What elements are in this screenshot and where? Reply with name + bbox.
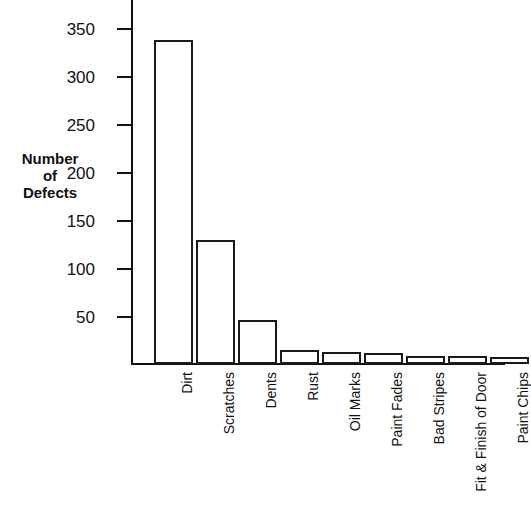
y-tick-label-300: 300: [35, 69, 95, 86]
y-tick-150: 150: [117, 220, 131, 222]
bar-oil-marks[interactable]: [322, 352, 361, 364]
bar-paint-fades[interactable]: [364, 353, 403, 364]
bar-dirt[interactable]: [154, 40, 193, 364]
y-tick-300: 300: [117, 76, 131, 78]
x-label-dirt: Dirt: [180, 372, 194, 394]
y-axis-line: [131, 0, 133, 365]
y-tick-label-100: 100: [35, 261, 95, 278]
y-tick-label-350: 350: [35, 21, 95, 38]
x-label-paint-chips: Paint Chips: [516, 372, 530, 444]
x-label-dents: Dents: [264, 372, 278, 409]
x-label-fit-finish-of-door: Fit & Finish of Door: [474, 372, 488, 492]
y-tick-250: 250: [117, 124, 131, 126]
y-tick-50: 50: [117, 316, 131, 318]
plot-area: 50100150200250300350: [131, 0, 505, 365]
x-label-oil-marks: Oil Marks: [348, 372, 362, 431]
bar-rust[interactable]: [280, 350, 319, 364]
y-tick-label-50: 50: [35, 309, 95, 326]
y-axis-title-line-3: Defects: [0, 184, 100, 201]
bar-dents[interactable]: [238, 320, 277, 364]
bar-bad-stripes[interactable]: [406, 356, 445, 364]
bar-scratches[interactable]: [196, 240, 235, 364]
x-label-paint-fades: Paint Fades: [390, 372, 404, 447]
y-tick-350: 350: [117, 28, 131, 30]
y-tick-200: 200: [117, 172, 131, 174]
bar-paint-chips[interactable]: [490, 357, 529, 364]
x-label-scratches: Scratches: [222, 372, 236, 434]
y-tick-label-250: 250: [35, 117, 95, 134]
bar-fit-finish-of-door[interactable]: [448, 356, 487, 364]
y-tick-label-150: 150: [35, 213, 95, 230]
y-tick-100: 100: [117, 268, 131, 270]
x-label-rust: Rust: [306, 372, 320, 401]
x-label-bad-stripes: Bad Stripes: [432, 372, 446, 444]
y-tick-label-200: 200: [35, 165, 95, 182]
